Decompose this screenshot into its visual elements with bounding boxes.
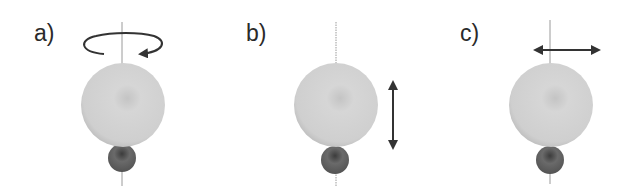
large-atom [294, 63, 378, 147]
large-atom [81, 63, 165, 147]
panel-label-c: c) [460, 20, 479, 46]
panel-c: c) [460, 20, 599, 184]
panel-label-a: a) [34, 20, 54, 46]
small-atom [321, 146, 349, 174]
molecule-motion-diagram: a) b) c) [0, 0, 621, 189]
small-atom [108, 144, 136, 172]
panel-a: a) [34, 20, 165, 186]
rotation-arrow-icon [84, 33, 162, 54]
large-atom [509, 63, 593, 147]
panel-b: b) [246, 20, 393, 186]
small-atom [536, 146, 564, 174]
panel-label-b: b) [246, 20, 266, 46]
